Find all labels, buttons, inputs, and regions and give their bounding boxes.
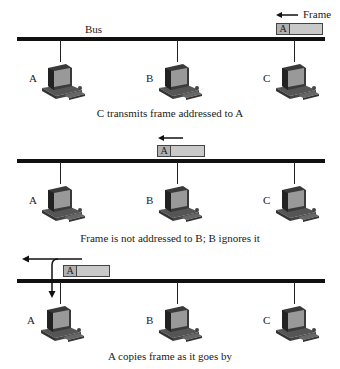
bus-line (17, 159, 325, 163)
station-label-a: A (29, 194, 37, 206)
panel-3: A A B C A copies frame as it goes by (0, 248, 340, 369)
computer-icon (272, 300, 320, 344)
panel-caption: A copies frame as it goes by (0, 350, 340, 362)
frame: A (157, 145, 205, 157)
panel-caption: C transmits frame addressed to A (0, 107, 340, 119)
frame-label: Frame (303, 8, 331, 20)
computer-icon (272, 180, 320, 224)
station-label-c: C (263, 72, 270, 84)
computer-icon (37, 300, 85, 344)
frame-direction-arrow-icon (158, 134, 183, 142)
station-label-b: B (146, 72, 153, 84)
computer-icon (38, 58, 86, 102)
station-label-a: A (27, 314, 35, 326)
frame: A (276, 23, 323, 35)
computer-icon (155, 180, 203, 224)
panel-1: Bus Frame A A B C C transmits frame addr… (0, 0, 340, 125)
station-label-c: C (263, 314, 270, 326)
station-label-b: B (146, 314, 153, 326)
panel-2: A A B C Frame is not addressed to B; B i… (0, 130, 340, 250)
frame: A (63, 265, 110, 277)
computer-icon (38, 180, 86, 224)
station-label-b: B (146, 194, 153, 206)
frame-direction-arrow-icon (276, 11, 298, 19)
computer-icon (272, 58, 320, 102)
bus-line (17, 37, 325, 41)
frame-address: A (158, 146, 171, 156)
frame-address: A (277, 24, 290, 34)
bus-line (17, 279, 325, 283)
computer-icon (155, 300, 203, 344)
computer-icon (155, 58, 203, 102)
station-label-a: A (29, 72, 37, 84)
panel-caption: Frame is not addressed to B; B ignores i… (0, 232, 340, 244)
station-label-c: C (263, 194, 270, 206)
bus-label: Bus (85, 23, 102, 35)
frame-address: A (64, 266, 77, 276)
